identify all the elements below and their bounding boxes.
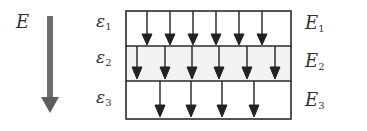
- field-label: E: [16, 13, 29, 31]
- field-line-arrow-icon: [142, 11, 152, 45]
- layer-1-field-lines: [142, 11, 267, 45]
- field-1-label: E1: [305, 14, 325, 34]
- layer-2-fill: [126, 46, 291, 81]
- field-line-arrow-icon: [211, 11, 221, 45]
- field-line-arrow-icon: [186, 81, 196, 117]
- epsilon-3-label: ε3: [96, 89, 112, 108]
- epsilon-1-label: ε1: [96, 13, 112, 32]
- field-line-arrow-icon: [165, 11, 175, 45]
- field-2-label: E2: [305, 52, 325, 72]
- field-line-arrow-icon: [155, 81, 165, 117]
- field-line-arrow-icon: [234, 11, 244, 45]
- field-line-arrow-icon: [217, 81, 227, 117]
- field-line-arrow-icon: [257, 11, 267, 45]
- epsilon-2-label: ε2: [96, 49, 112, 68]
- layer-3-field-lines: [155, 81, 259, 117]
- dielectric-stack: [126, 11, 291, 119]
- field-line-arrow-icon: [249, 81, 259, 117]
- field-3-label: E3: [305, 91, 325, 111]
- field-line-arrow-icon: [188, 11, 198, 45]
- field-direction-arrow-icon: [41, 16, 59, 113]
